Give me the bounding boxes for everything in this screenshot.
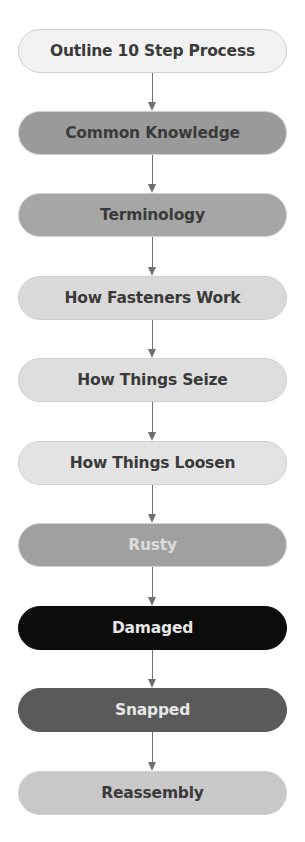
connector-line	[152, 402, 153, 433]
arrow-down-icon	[148, 679, 156, 688]
arrow-down-icon	[148, 762, 156, 771]
arrow-down-icon	[148, 597, 156, 606]
arrow-down-icon	[148, 267, 156, 276]
flow-step-8: Damaged	[18, 606, 287, 650]
flow-step-6: How Things Loosen	[18, 441, 287, 485]
connector-line	[152, 650, 153, 680]
connector-line	[152, 485, 153, 515]
flow-step-10: Reassembly	[18, 771, 287, 815]
arrow-down-icon	[148, 432, 156, 441]
arrow-down-icon	[148, 102, 156, 111]
flow-step-9: Snapped	[18, 688, 287, 732]
connector-line	[152, 567, 153, 598]
flow-step-4: How Fasteners Work	[18, 276, 287, 320]
connector-line	[152, 73, 153, 103]
connector-line	[152, 732, 153, 763]
flow-step-1: Outline 10 Step Process	[18, 29, 287, 73]
arrow-down-icon	[148, 514, 156, 523]
flow-step-7: Rusty	[18, 523, 287, 567]
flow-step-5: How Things Seize	[18, 358, 287, 402]
flow-step-2: Common Knowledge	[18, 111, 287, 155]
arrow-down-icon	[148, 349, 156, 358]
connector-line	[152, 320, 153, 350]
arrow-down-icon	[148, 184, 156, 193]
flow-step-3: Terminology	[18, 193, 287, 237]
connector-line	[152, 237, 153, 268]
connector-line	[152, 155, 153, 185]
